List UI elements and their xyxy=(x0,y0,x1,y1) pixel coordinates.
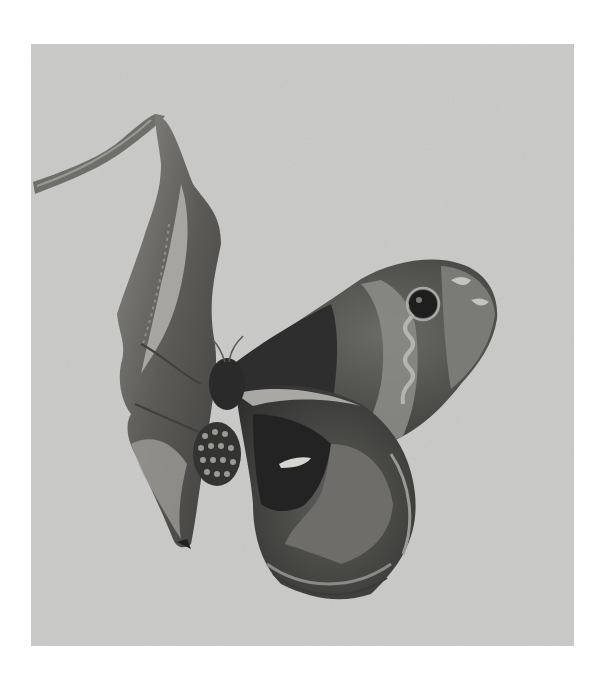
wing-eyespot xyxy=(409,290,437,318)
moth-photograph xyxy=(31,44,574,646)
